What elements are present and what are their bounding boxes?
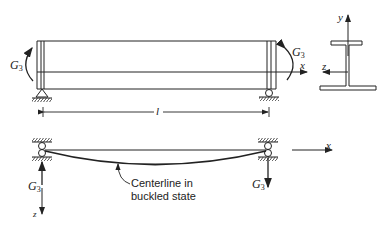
z-axis-label-bottom: z — [33, 210, 37, 219]
centerline-annotation: Centerline in buckled state — [131, 177, 196, 202]
roller-support-right — [259, 90, 279, 102]
moment-label-left: G3 — [10, 59, 23, 73]
force-label-left: G3 — [28, 180, 41, 194]
x-axis-label-top: x — [300, 60, 305, 71]
pin-support-left — [32, 89, 52, 102]
moment-arrow-left — [26, 48, 33, 81]
annotation-leader — [118, 164, 130, 184]
top-beam — [37, 41, 276, 89]
annotation-line-1: Centerline in — [131, 177, 196, 190]
y-axis-label: y — [338, 12, 343, 23]
buckled-centerline — [45, 151, 266, 165]
force-label-right: G3 — [252, 178, 265, 192]
beam-buckling-diagram: G3 G3 x l y z G3 G3 z x Centerline in bu… — [0, 0, 388, 229]
length-label: l — [156, 106, 159, 117]
moment-label-right: G3 — [292, 46, 305, 60]
z-axis-label-section: z — [322, 61, 326, 72]
annotation-line-2: buckled state — [131, 190, 196, 203]
x-axis-label-bottom: x — [326, 140, 331, 151]
